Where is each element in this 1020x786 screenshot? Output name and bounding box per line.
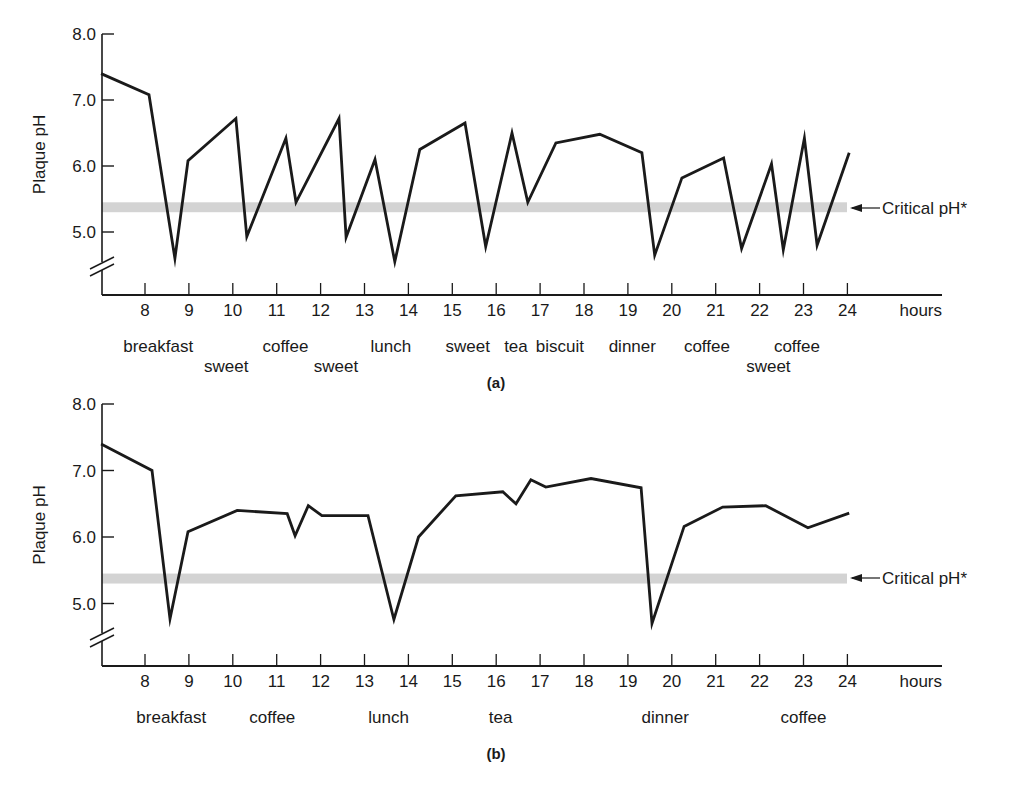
x-tick-label: 16 (487, 672, 506, 691)
y-tick-label: 6.0 (72, 528, 96, 547)
x-tick-label: 11 (268, 672, 286, 691)
y-tick-label: 5.0 (72, 595, 96, 614)
arrow-left-icon (850, 574, 862, 582)
meal-annotation: coffee (780, 708, 826, 727)
y-tick-label: 5.0 (72, 223, 96, 242)
x-tick-label: 12 (311, 672, 330, 691)
panel-label: (a) (487, 374, 505, 391)
plaque-ph-figure: 8.07.06.05.0Plaque pH8910111213141516171… (0, 0, 1020, 786)
y-tick-label: 8.0 (72, 25, 96, 44)
x-tick-label: 21 (706, 301, 725, 320)
x-tick-label: 19 (618, 301, 637, 320)
x-tick-label: 9 (184, 672, 193, 691)
x-tick-label: 23 (794, 672, 813, 691)
meal-annotation: coffee (774, 337, 820, 356)
x-tick-label: 11 (268, 301, 286, 320)
meal-annotation: tea (489, 708, 513, 727)
x-tick-label: 14 (399, 672, 418, 691)
x-tick-label: 12 (311, 301, 330, 320)
y-tick-label: 6.0 (72, 157, 96, 176)
meal-annotation: biscuit (536, 337, 584, 356)
x-tick-label: 17 (531, 301, 550, 320)
meal-annotation: lunch (368, 708, 409, 727)
meal-annotation: lunch (371, 337, 412, 356)
x-tick-label: 15 (443, 672, 462, 691)
x-tick-label: 24 (838, 301, 857, 320)
y-tick-label: 7.0 (72, 462, 96, 481)
y-tick-label: 8.0 (72, 395, 96, 414)
x-tick-label: 20 (662, 301, 681, 320)
meal-annotation: sweet (204, 357, 249, 376)
y-axis-title: Plaque pH (30, 115, 49, 194)
x-tick-label: 19 (618, 672, 637, 691)
meal-annotation: sweet (746, 357, 791, 376)
ph-series-line (101, 74, 849, 262)
x-tick-label: 8 (140, 672, 149, 691)
panel-label: (b) (486, 745, 505, 762)
meal-annotation: breakfast (136, 708, 206, 727)
x-tick-label: 17 (531, 672, 550, 691)
x-tick-label: 13 (355, 301, 374, 320)
x-tick-label: 8 (140, 301, 149, 320)
x-tick-label: 22 (750, 301, 769, 320)
x-tick-label: 13 (355, 672, 374, 691)
x-tick-label: 15 (443, 301, 462, 320)
meal-annotation: sweet (314, 357, 359, 376)
x-tick-label: 18 (575, 672, 594, 691)
arrow-left-icon (850, 204, 862, 212)
critical-ph-label: Critical pH* (882, 199, 967, 218)
x-tick-label: 16 (487, 301, 506, 320)
chart-panel-a: 8.07.06.05.0Plaque pH8910111213141516171… (30, 25, 967, 391)
x-axis-title: hours (899, 672, 942, 691)
meal-annotation: coffee (684, 337, 730, 356)
chart-panel-b: 8.07.06.05.0Plaque pH8910111213141516171… (30, 395, 967, 762)
x-tick-label: 10 (223, 301, 242, 320)
x-tick-label: 18 (575, 301, 594, 320)
critical-ph-band (102, 574, 847, 584)
x-axis-title: hours (899, 301, 942, 320)
x-tick-label: 24 (838, 672, 857, 691)
meal-annotation: dinner (609, 337, 657, 356)
x-tick-label: 22 (750, 672, 769, 691)
critical-ph-label: Critical pH* (882, 569, 967, 588)
x-tick-label: 14 (399, 301, 418, 320)
x-tick-label: 9 (184, 301, 193, 320)
meal-annotation: coffee (249, 708, 295, 727)
y-axis-title: Plaque pH (30, 485, 49, 564)
meal-annotation: dinner (642, 708, 690, 727)
meal-annotation: tea (504, 337, 528, 356)
x-tick-label: 23 (794, 301, 813, 320)
x-tick-label: 20 (662, 672, 681, 691)
x-tick-label: 10 (223, 672, 242, 691)
ph-series-line (101, 444, 849, 624)
meal-annotation: sweet (445, 337, 490, 356)
meal-annotation: coffee (262, 337, 308, 356)
y-tick-label: 7.0 (72, 91, 96, 110)
meal-annotation: breakfast (123, 337, 193, 356)
x-tick-label: 21 (706, 672, 725, 691)
